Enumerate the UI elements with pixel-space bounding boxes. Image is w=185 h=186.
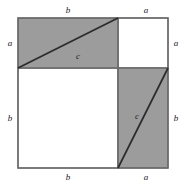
label-right-upper-side: a: [174, 39, 179, 48]
label-bottom-left-side: b: [66, 173, 71, 182]
label-upper-hypotenuse: c: [76, 52, 80, 61]
bottom-left-square: [18, 68, 118, 168]
label-top-left-side: b: [66, 6, 71, 15]
figure-canvas: [0, 0, 185, 186]
label-left-upper-side: a: [8, 39, 13, 48]
label-left-lower-side: b: [8, 114, 13, 123]
label-bottom-right-side: a: [144, 173, 149, 182]
label-right-lower-side: b: [174, 114, 179, 123]
label-lower-hypotenuse: c: [135, 112, 139, 121]
label-top-right-side: a: [144, 6, 149, 15]
top-right-square: [118, 18, 168, 68]
pythagorean-dissection-figure: b a a b a b b a c c: [0, 0, 185, 186]
